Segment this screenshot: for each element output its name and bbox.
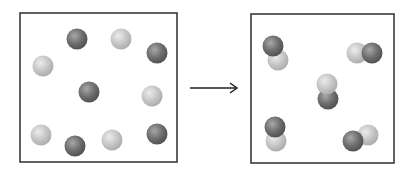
light-atom	[317, 74, 338, 95]
diatomic-molecule	[263, 36, 289, 71]
light-atom	[142, 86, 163, 107]
reaction-diagram	[0, 0, 403, 173]
products-box	[251, 14, 394, 163]
dark-atom	[362, 43, 383, 64]
dark-atom	[67, 29, 88, 50]
diatomic-molecule	[265, 117, 287, 152]
light-atom	[111, 29, 132, 50]
diatomic-molecule	[317, 74, 339, 110]
dark-atom	[343, 131, 364, 152]
dark-atom	[265, 117, 286, 138]
diatomic-molecule	[343, 125, 379, 152]
reaction-arrow	[190, 83, 237, 93]
dark-atom	[79, 82, 100, 103]
light-atom	[31, 125, 52, 146]
light-atom	[33, 56, 54, 77]
dark-atom	[147, 124, 168, 145]
reactants-box	[20, 13, 177, 162]
dark-atom	[263, 36, 284, 57]
dark-atom	[147, 43, 168, 64]
dark-atom	[65, 136, 86, 157]
light-atom	[102, 130, 123, 151]
diatomic-molecule	[347, 43, 383, 64]
